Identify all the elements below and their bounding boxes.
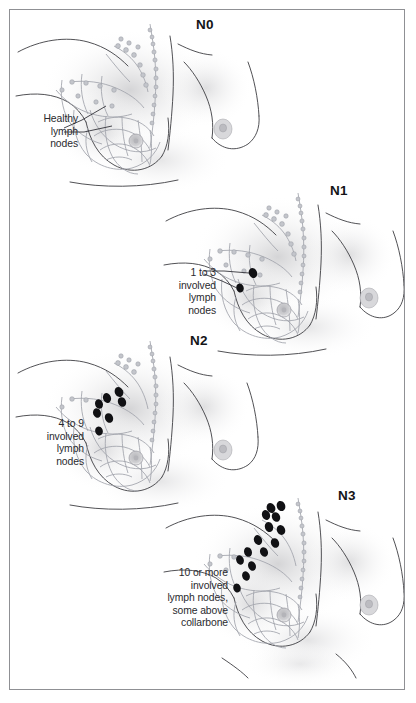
caption-n1: 1 to 3 involved lymph nodes — [160, 267, 216, 317]
stage-label-n0: N0 — [196, 17, 214, 32]
stage-label-n2: N2 — [190, 333, 208, 348]
leader-lines-n0 — [10, 10, 266, 195]
staging-figure: Healthy lymph nodes 1 to 3 involved lymp… — [0, 0, 416, 703]
caption-n3: 10 or more involved lymph nodes, some ab… — [150, 567, 228, 630]
stage-label-n1: N1 — [330, 183, 348, 198]
caption-n0: Healthy lymph nodes — [18, 113, 78, 151]
nipple-right-n3 — [360, 595, 378, 615]
panel-n0 — [10, 10, 266, 195]
caption-n2: 4 to 9 involved lymph nodes — [28, 418, 84, 468]
nipple-right-n2 — [214, 440, 232, 460]
stage-label-n3: N3 — [338, 488, 356, 503]
